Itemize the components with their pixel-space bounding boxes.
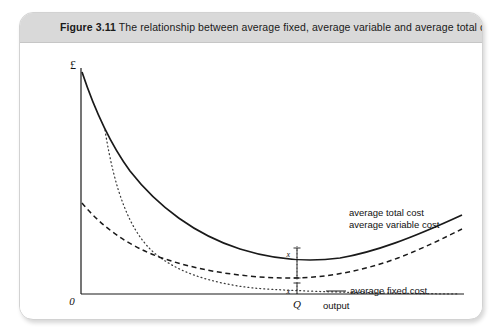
average-cost-curves-chart: £ 0 Q x x [20,43,482,318]
x-tick-label-q: Q [293,298,301,310]
average-total-cost-curve [82,72,462,260]
label-average-fixed-cost: average fixed cost [350,285,427,296]
origin-label: 0 [69,295,75,307]
gap-marker-atc-avc-label: x [285,250,290,259]
chart-plot-area: £ 0 Q x x [20,43,482,318]
gap-marker-afc-axis-label: x [285,287,290,296]
figure-caption: Figure 3.11 The relationship between ave… [60,21,483,33]
x-axis-label: output [323,300,350,311]
y-axis-label: £ [70,58,76,72]
label-average-variable-cost: average variable cost [349,219,440,230]
figure-caption-text: The relationship between average fixed, … [119,21,483,33]
figure-number: Figure 3.11 [60,21,116,33]
figure-card: Figure 3.11 The relationship between ave… [19,12,483,320]
gap-marker-atc-avc: x [285,248,300,278]
figure-caption-bar: Figure 3.11 The relationship between ave… [20,13,482,43]
label-average-total-cost: average total cost [349,207,424,218]
